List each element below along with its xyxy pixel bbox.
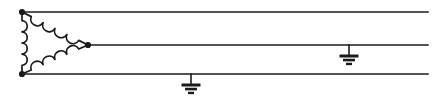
right-apex-terminal <box>85 42 91 48</box>
bottom-left-terminal <box>19 71 25 77</box>
terminal-nodes-group <box>19 9 91 77</box>
coil-bottom <box>22 45 88 74</box>
schematic-canvas <box>0 0 433 98</box>
ground-symbols-group <box>182 45 359 93</box>
delta-winding-coils-group <box>22 12 88 74</box>
delta-winding-schematic <box>0 0 433 98</box>
ground-middle-line <box>340 45 359 64</box>
top-left-terminal <box>19 9 25 15</box>
ground-bottom-line <box>182 74 201 93</box>
coil-left <box>22 12 27 74</box>
coil-top <box>22 12 88 45</box>
